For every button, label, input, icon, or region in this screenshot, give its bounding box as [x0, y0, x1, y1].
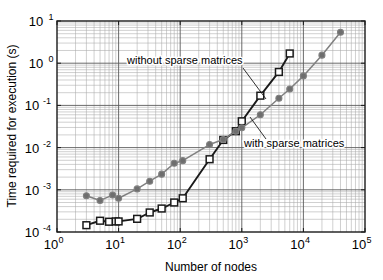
data-point — [180, 158, 186, 164]
data-point — [106, 218, 113, 225]
svg-text:10: 10 — [229, 237, 243, 252]
data-point — [158, 205, 165, 212]
svg-text:10: 10 — [25, 98, 39, 113]
svg-text:10: 10 — [105, 237, 119, 252]
data-point — [171, 160, 177, 166]
annotation-label: without sparse matrices — [126, 54, 243, 66]
x-axis-title: Number of nodes — [165, 260, 257, 274]
svg-text:0: 0 — [58, 235, 63, 245]
data-point — [146, 209, 153, 216]
data-point — [233, 128, 239, 134]
svg-text:0: 0 — [48, 54, 53, 64]
data-point — [207, 142, 213, 148]
svg-text:10: 10 — [352, 237, 366, 252]
chart-figure: without sparse matriceswithout sparse ma… — [0, 0, 383, 280]
svg-text:10: 10 — [167, 237, 181, 252]
data-point — [319, 52, 325, 58]
data-point — [276, 95, 282, 101]
data-point — [171, 199, 178, 206]
svg-text:5: 5 — [366, 235, 371, 245]
data-point — [257, 112, 263, 118]
data-point — [179, 195, 186, 202]
data-point — [134, 186, 140, 192]
data-point — [275, 69, 282, 76]
svg-text:-4: -4 — [43, 223, 51, 233]
svg-text:10: 10 — [29, 56, 43, 71]
data-point — [147, 178, 153, 184]
data-point — [220, 137, 226, 143]
svg-text:3: 3 — [243, 235, 248, 245]
svg-text:10: 10 — [44, 237, 58, 252]
data-point — [110, 192, 116, 198]
svg-text:10: 10 — [290, 237, 304, 252]
data-point — [83, 222, 90, 229]
data-point — [97, 217, 104, 224]
data-point — [83, 193, 89, 199]
data-point — [337, 29, 343, 35]
data-point — [206, 156, 213, 163]
svg-text:4: 4 — [305, 235, 310, 245]
data-point — [134, 215, 141, 222]
annotation-label: with sparse matrices — [243, 137, 345, 149]
svg-text:1: 1 — [48, 12, 53, 22]
data-point — [115, 218, 122, 225]
data-point — [286, 50, 293, 57]
svg-text:10: 10 — [25, 141, 39, 156]
svg-text:-2: -2 — [43, 139, 51, 149]
svg-text:-3: -3 — [43, 181, 51, 191]
data-point — [159, 171, 165, 177]
svg-text:-1: -1 — [43, 96, 51, 106]
svg-text:2: 2 — [182, 235, 187, 245]
data-point — [300, 73, 306, 79]
data-point — [97, 197, 103, 203]
svg-text:10: 10 — [25, 225, 39, 240]
data-point — [239, 125, 245, 131]
data-point — [257, 92, 264, 99]
svg-text:10: 10 — [25, 183, 39, 198]
data-point — [116, 195, 122, 201]
data-point — [238, 118, 245, 125]
svg-text:1: 1 — [120, 235, 125, 245]
svg-text:10: 10 — [29, 14, 43, 29]
y-axis-title: Time required for execution (s) — [5, 45, 19, 208]
data-point — [287, 86, 293, 92]
